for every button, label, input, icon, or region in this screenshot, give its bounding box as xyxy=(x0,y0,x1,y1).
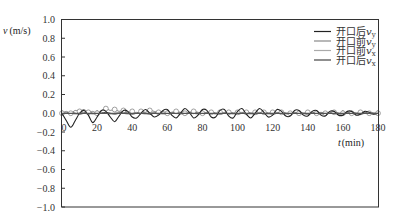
x-tick-label: 40 xyxy=(127,122,137,133)
y-axis-title: v(m/s) xyxy=(3,25,31,37)
y-tick-label: 0.4 xyxy=(43,70,56,81)
y-tick-label: −0.6 xyxy=(37,164,55,175)
legend-label: 开口后vx xyxy=(336,55,376,68)
x-tick-label: 140 xyxy=(300,122,315,133)
x-tick-label: 20 xyxy=(92,122,102,133)
x-tick-label: 60 xyxy=(162,122,172,133)
x-tick-label: 120 xyxy=(265,122,280,133)
x-axis-title: t(min) xyxy=(338,137,364,149)
series-marker xyxy=(112,107,117,112)
y-tick-label: −0.2 xyxy=(37,127,55,138)
y-tick-label: −0.8 xyxy=(37,183,55,194)
y-tick-label: 1.0 xyxy=(43,14,56,25)
y-tick-label: −1.0 xyxy=(37,202,55,213)
x-tick-label: 0 xyxy=(62,122,67,133)
legend: 开口后vy开口前vy开口前vx开口后vx xyxy=(314,26,376,68)
y-tick-label: −0.4 xyxy=(37,145,55,156)
x-tick-label: 100 xyxy=(230,122,245,133)
y-tick-label: 0.2 xyxy=(43,89,56,100)
y-tick-label: 0.8 xyxy=(43,33,56,44)
plot-series xyxy=(60,106,381,127)
x-tick-label: 80 xyxy=(197,122,207,133)
y-tick-label: 0.6 xyxy=(43,52,56,63)
x-tick-label: 160 xyxy=(335,122,350,133)
velocity-line-chart: 1.00.80.60.40.20.0−0.2−0.4−0.6−0.8−1.0 0… xyxy=(0,0,393,222)
y-tick-label: 0.0 xyxy=(43,108,56,119)
